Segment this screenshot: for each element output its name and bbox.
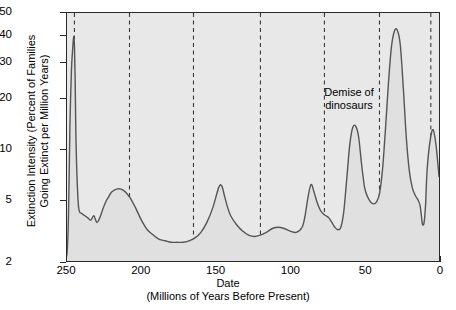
plot-area bbox=[66, 12, 440, 262]
annotation-line-1: Demise of bbox=[318, 86, 380, 99]
x-tick-mark-0 bbox=[440, 256, 441, 262]
y-tick-label-2: 2 bbox=[0, 255, 12, 267]
y-axis-title-line-1: Extinction Intensity (Percent of Familie… bbox=[25, 1, 38, 261]
x-tick-label-150: 150 bbox=[194, 264, 238, 276]
extinction-intensity-plot bbox=[67, 13, 439, 261]
curve-fill bbox=[67, 29, 439, 261]
x-axis-title-line-1: Date bbox=[0, 277, 456, 290]
y-tick-label-20: 20 bbox=[0, 91, 12, 103]
y-tick-label-50: 50 bbox=[0, 5, 12, 17]
x-tick-label-100: 100 bbox=[268, 264, 312, 276]
x-axis-title-line-2: (Millions of Years Before Present) bbox=[0, 290, 456, 303]
demise-of-dinosaurs-annotation: Demise of dinosaurs bbox=[318, 86, 380, 112]
y-tick-label-30: 30 bbox=[0, 55, 12, 67]
x-axis-title: Date (Millions of Years Before Present) bbox=[0, 277, 456, 303]
y-tick-label-40: 40 bbox=[0, 28, 12, 40]
y-tick-label-5: 5 bbox=[0, 193, 12, 205]
y-axis-title: Extinction Intensity (Percent of Familie… bbox=[25, 1, 51, 261]
figure: Extinction Intensity (Percent of Familie… bbox=[0, 0, 456, 310]
x-tick-label-50: 50 bbox=[343, 264, 387, 276]
annotation-line-2: dinosaurs bbox=[318, 99, 380, 112]
y-axis-title-line-2: Going Extinct per Million Years) bbox=[38, 1, 51, 261]
y-tick-mark-2 bbox=[60, 262, 66, 263]
x-tick-label-250: 250 bbox=[44, 264, 88, 276]
x-tick-label-200: 200 bbox=[119, 264, 163, 276]
y-tick-label-10: 10 bbox=[0, 142, 12, 154]
x-tick-label-0: 0 bbox=[418, 264, 456, 276]
